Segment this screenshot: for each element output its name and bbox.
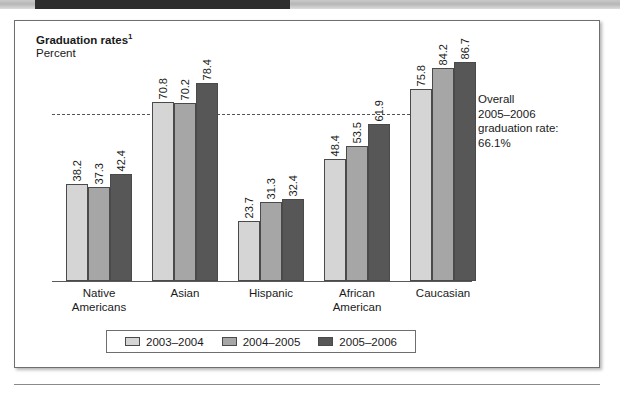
bar[interactable]: [346, 146, 368, 281]
bar-wrapper: 32.4: [282, 28, 304, 281]
annotation-line-2: 2005–2006: [478, 107, 559, 122]
bar-group: 48.453.561.9: [324, 28, 390, 281]
legend-label: 2005–2006: [339, 336, 397, 348]
bar-wrapper: 78.4: [196, 28, 218, 281]
bar-wrapper: 31.3: [260, 28, 282, 281]
bar[interactable]: [368, 124, 390, 281]
x-axis-category-label-line: Caucasian: [388, 286, 498, 300]
annotation-line-4: 66.1%: [478, 136, 559, 151]
reference-line-annotation: Overall 2005–2006 graduation rate: 66.1%: [478, 92, 559, 150]
bar-value-label: 70.8: [152, 78, 174, 99]
bar[interactable]: [282, 199, 304, 281]
bar-value-label: 75.8: [410, 65, 432, 86]
x-axis-category-label: Caucasian: [388, 286, 498, 300]
legend-swatch: [125, 337, 140, 346]
legend-swatch: [318, 337, 333, 346]
bar[interactable]: [410, 89, 432, 281]
bar[interactable]: [432, 68, 454, 281]
x-axis-category-label-line: American: [302, 300, 412, 314]
x-axis-baseline: [52, 281, 472, 282]
bar[interactable]: [260, 202, 282, 281]
bar-value-label: 78.4: [196, 59, 218, 80]
annotation-line-1: Overall: [478, 92, 559, 107]
bar[interactable]: [324, 159, 346, 281]
bar-wrapper: 70.2: [174, 28, 196, 281]
footer-rule: [14, 384, 600, 385]
legend-label: 2003–2004: [146, 336, 204, 348]
bar[interactable]: [196, 83, 218, 281]
bar[interactable]: [88, 187, 110, 281]
legend-label: 2004–2005: [243, 336, 301, 348]
bar-wrapper: 84.2: [432, 28, 454, 281]
bar-group: 38.237.342.4: [66, 28, 132, 281]
bar-wrapper: 70.8: [152, 28, 174, 281]
plot-area: 38.237.342.470.870.278.423.731.332.448.4…: [52, 28, 472, 281]
annotation-line-3: graduation rate:: [478, 121, 559, 136]
bar-value-label: 86.7: [454, 38, 476, 59]
legend-item[interactable]: 2005–2006: [318, 336, 397, 348]
bar-value-label: 61.9: [368, 100, 390, 121]
x-axis-category-label-line: Americans: [44, 300, 154, 314]
bar-value-label: 84.2: [432, 44, 454, 65]
legend-item[interactable]: 2003–2004: [125, 336, 204, 348]
bar-group: 23.731.332.4: [238, 28, 304, 281]
bar-group: 75.884.286.7: [410, 28, 476, 281]
bar-wrapper: 23.7: [238, 28, 260, 281]
bar-group: 70.870.278.4: [152, 28, 218, 281]
bar-value-label: 53.5: [346, 122, 368, 143]
bar-value-label: 48.4: [324, 135, 346, 156]
bar[interactable]: [66, 184, 88, 281]
bar-value-label: 31.3: [260, 178, 282, 199]
bar-value-label: 70.2: [174, 79, 196, 100]
bar[interactable]: [174, 103, 196, 281]
bar-value-label: 42.4: [110, 150, 132, 171]
bar-wrapper: 37.3: [88, 28, 110, 281]
bar-wrapper: 75.8: [410, 28, 432, 281]
bar[interactable]: [238, 221, 260, 281]
page-header-band: [0, 0, 620, 9]
bar[interactable]: [110, 174, 132, 281]
bar-wrapper: 53.5: [346, 28, 368, 281]
bar-value-label: 32.4: [282, 175, 304, 196]
bar-value-label: 38.2: [66, 160, 88, 181]
bar-value-label: 37.3: [88, 163, 110, 184]
bar[interactable]: [454, 62, 476, 281]
legend-swatch: [222, 337, 237, 346]
page-header-block: [35, 0, 290, 9]
bar[interactable]: [152, 102, 174, 281]
bar-wrapper: 48.4: [324, 28, 346, 281]
bar-wrapper: 42.4: [110, 28, 132, 281]
legend-item[interactable]: 2004–2005: [222, 336, 301, 348]
bar-value-label: 23.7: [238, 197, 260, 218]
bar-wrapper: 38.2: [66, 28, 88, 281]
chart-legend: 2003–20042004–20052005–2006: [106, 330, 416, 353]
bar-wrapper: 86.7: [454, 28, 476, 281]
bar-wrapper: 61.9: [368, 28, 390, 281]
